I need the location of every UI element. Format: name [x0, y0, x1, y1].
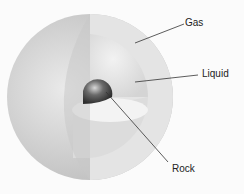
gas-label: Gas [185, 18, 203, 28]
liquid-label: Liquid [202, 69, 229, 79]
rock-label: Rock [172, 164, 195, 174]
planet-layers-diagram [0, 0, 244, 194]
